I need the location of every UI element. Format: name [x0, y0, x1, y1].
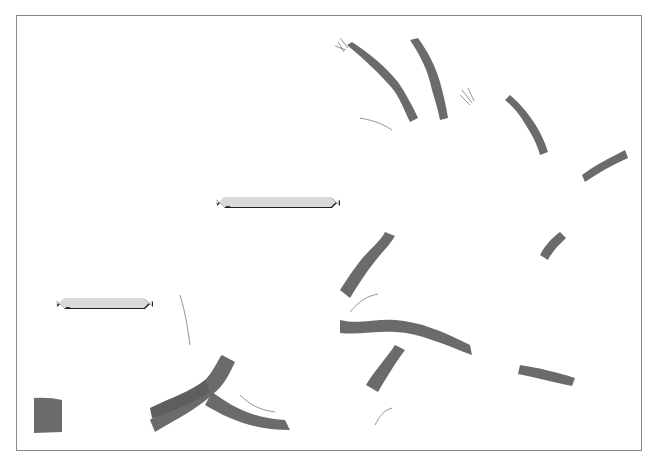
previous-experience-box	[216, 197, 339, 207]
background-factors-box	[56, 298, 152, 308]
tree-branches-graphic	[0, 0, 651, 461]
background-factors-box-wrap	[56, 298, 152, 308]
previous-experience-box-wrap	[216, 197, 339, 207]
